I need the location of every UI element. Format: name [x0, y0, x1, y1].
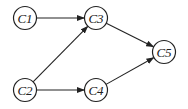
node-label: C4 — [88, 83, 104, 98]
node-c5: C5 — [153, 41, 176, 64]
graph-svg: C1C2C3C4C5 — [0, 0, 188, 109]
dependency-graph: C1C2C3C4C5 — [0, 0, 188, 109]
edge-c4-c5-arrow — [106, 58, 153, 85]
node-label: C5 — [156, 45, 172, 60]
node-c3: C3 — [85, 7, 108, 30]
node-label: C2 — [17, 83, 33, 98]
edge-c2-c3-arrow — [33, 27, 87, 82]
node-c1: C1 — [14, 7, 37, 30]
node-c4: C4 — [85, 79, 108, 102]
node-c2: C2 — [14, 79, 37, 102]
node-label: C3 — [88, 11, 104, 26]
nodes: C1C2C3C4C5 — [14, 7, 176, 102]
edge-c3-c5-arrow — [106, 23, 153, 46]
node-label: C1 — [17, 11, 32, 26]
